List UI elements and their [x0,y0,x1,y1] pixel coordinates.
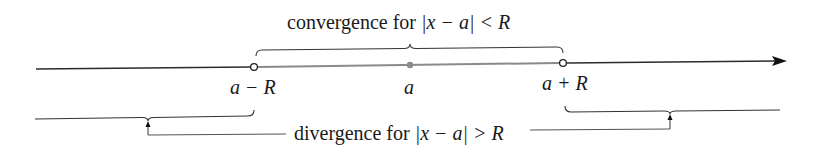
convergence-condition: |x − a| < R [421,11,510,33]
right-pointer-arrow-icon [668,114,673,120]
convergence-brace [256,44,563,56]
left-endpoint-label: a − R [230,77,276,97]
right-divergence-brace [565,106,780,114]
right-endpoint-label: a + R [542,73,588,93]
left-open-circle-icon [251,64,258,71]
convergence-label: convergence for |x − a| < R [287,12,510,32]
left-ray [36,67,250,69]
left-leader-line [148,134,286,135]
right-open-circle-icon [560,60,567,67]
right-ray [567,61,776,63]
center-dot-icon [407,62,413,68]
right-leader-line [530,129,670,130]
convergence-text: convergence for [287,11,421,33]
divergence-condition: |x − a| > R [415,122,504,144]
radius-of-convergence-diagram: convergence for |x − a| < R a − R a a + … [0,0,825,151]
divergence-label: divergence for |x − a| > R [294,123,504,143]
left-divergence-brace [35,110,254,121]
divergence-text: divergence for [294,122,415,144]
left-pointer-arrow-icon [146,121,151,127]
center-label: a [404,77,414,97]
